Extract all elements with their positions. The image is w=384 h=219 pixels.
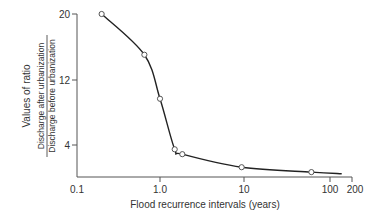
x-ticks: 0.1 1.0 10 100 200: [70, 177, 364, 195]
y-ratio-numerator: Discharge after urbanization: [36, 43, 46, 150]
data-point-marker: [180, 152, 185, 157]
data-point-marker: [172, 147, 177, 152]
x-tick-1.0: 1.0: [153, 184, 167, 195]
data-point-marker: [239, 165, 244, 170]
x-tick-200: 200: [347, 184, 364, 195]
y-ratio-numerator-group: Discharge after urbanization: [36, 43, 46, 150]
data-curve: [102, 14, 342, 174]
y-tick-4: 4: [64, 140, 70, 151]
y-ratio-denominator-group: Discharge before urbanization: [47, 39, 57, 153]
y-tick-20: 20: [59, 9, 71, 20]
x-axis-title: Flood recurrence intervals (years): [130, 199, 280, 210]
data-point-marker: [142, 52, 147, 57]
y-axis-title: Values of ratio: [21, 64, 32, 128]
x-tick-100: 100: [322, 184, 339, 195]
chart: 20 12 4 0.1 1.0 10 100 200 Flood recurre…: [0, 0, 384, 219]
y-ratio-denominator: Discharge before urbanization: [47, 39, 57, 153]
data-markers: [99, 11, 314, 174]
y-axis-title-group: Values of ratio: [21, 64, 32, 128]
data-point-marker: [157, 96, 162, 101]
x-tick-10: 10: [238, 184, 250, 195]
data-point-marker: [99, 11, 104, 16]
data-point-marker: [309, 170, 314, 175]
y-tick-12: 12: [59, 75, 71, 86]
x-tick-0.1: 0.1: [70, 184, 84, 195]
y-ticks: 20 12 4: [59, 9, 77, 151]
